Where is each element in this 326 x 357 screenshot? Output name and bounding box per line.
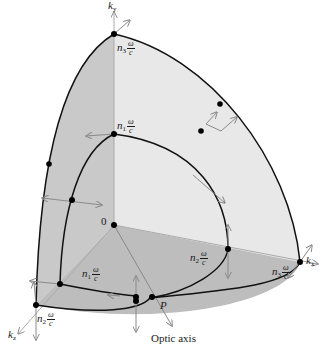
label-n2-left: n2ωc [37,311,55,328]
point-p-label: P [160,300,167,311]
ky-axis-label: ky [108,0,116,13]
face-right-ky-kx [114,34,300,262]
kz-axis-label: kz [8,329,16,342]
label-n1-mid: n1ωc [117,118,135,135]
label-n3-top: n3ωc [117,40,135,57]
kx-axis-label: kx [306,255,314,268]
origin-label: 0 [101,216,107,227]
label-n3-right: n3ωc [272,264,290,281]
label-n1-low: n1ωc [82,266,100,283]
label-n2-right: n2ωc [190,250,208,267]
diagram-stage: ky kx kz 0 n3ωc n1ωc n1ωc n2ωc n3ωc n2ωc… [0,0,326,357]
optic-axis-label: Optic axis [151,333,196,344]
